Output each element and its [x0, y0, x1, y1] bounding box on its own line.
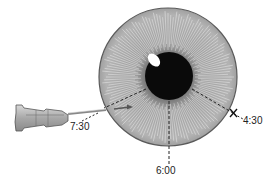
eye-diagram: 7:30 6:00 4:30 — [0, 0, 280, 188]
leader-730 — [82, 113, 98, 121]
label-730: 7:30 — [70, 122, 89, 132]
label-600: 6:00 — [156, 166, 175, 176]
exit-x-mark-icon — [230, 109, 237, 117]
needle-hub-icon — [15, 105, 68, 131]
label-430: 4:30 — [243, 116, 262, 126]
